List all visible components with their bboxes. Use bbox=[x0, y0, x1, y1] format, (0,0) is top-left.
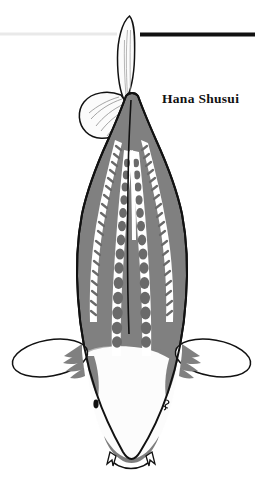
eye-left bbox=[93, 400, 98, 409]
koi-illustration bbox=[0, 0, 255, 501]
figure-page: Hana Shusui bbox=[0, 0, 255, 501]
variety-label: Hana Shusui bbox=[162, 92, 239, 106]
